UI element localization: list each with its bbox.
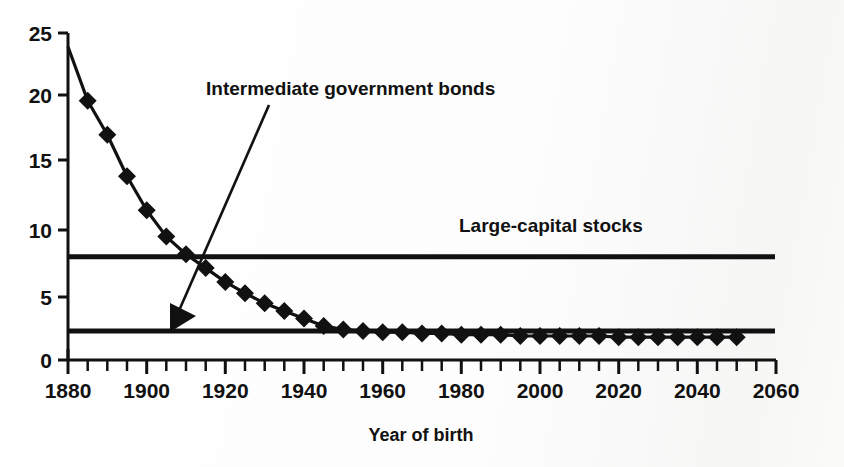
data-point-marker [256, 294, 274, 312]
y-tick-label-10: 10 [29, 219, 52, 242]
data-point-marker [354, 322, 372, 340]
x-tick-label-2000: 2000 [517, 379, 564, 402]
x-tick-label-1960: 1960 [359, 379, 406, 402]
data-point-marker [433, 324, 451, 342]
x-tick-labels: 1880 1900 1920 1940 1960 1980 2000 2020 … [45, 379, 800, 402]
annotation-arrowhead-bonds [170, 303, 196, 332]
data-point-marker [79, 92, 97, 110]
x-tick-label-1880: 1880 [45, 379, 92, 402]
annotation-label-bonds: Intermediate government bonds [206, 78, 495, 99]
data-point-marker [275, 302, 293, 320]
annotation-intermediate-government-bonds: Intermediate government bonds [170, 78, 495, 332]
annotation-large-capital-stocks: Large-capital stocks [459, 215, 643, 236]
x-tick-label-1940: 1940 [281, 379, 328, 402]
y-tick-label-25: 25 [29, 22, 53, 45]
x-tick-label-2020: 2020 [595, 379, 642, 402]
y-tick-label-15: 15 [29, 149, 53, 172]
data-point-marker [393, 323, 411, 341]
x-tick-label-1920: 1920 [202, 379, 249, 402]
data-point-marker [413, 324, 431, 342]
data-point-marker [374, 323, 392, 341]
x-tick-label-1980: 1980 [438, 379, 485, 402]
annotation-label-stocks: Large-capital stocks [459, 215, 643, 236]
data-point-marker [236, 284, 254, 302]
y-tick-label-20: 20 [29, 84, 52, 107]
x-tick-label-2060: 2060 [753, 379, 800, 402]
x-tick-label-2040: 2040 [674, 379, 721, 402]
x-axis-title: Year of birth [368, 425, 473, 445]
data-point-marker [295, 309, 313, 327]
chart-svg: 25 20 15 10 5 0 [0, 0, 844, 467]
y-tick-label-5: 5 [40, 286, 52, 309]
data-point-marker [118, 167, 136, 185]
chart-figure: 25 20 15 10 5 0 [0, 0, 844, 467]
y-tick-labels: 25 20 15 10 5 0 [29, 22, 53, 372]
y-tick-label-0: 0 [40, 349, 52, 372]
x-tick-marks-minor [88, 360, 757, 371]
data-point-marker [98, 126, 116, 144]
x-tick-label-1900: 1900 [123, 379, 170, 402]
data-point-marker [334, 321, 352, 339]
